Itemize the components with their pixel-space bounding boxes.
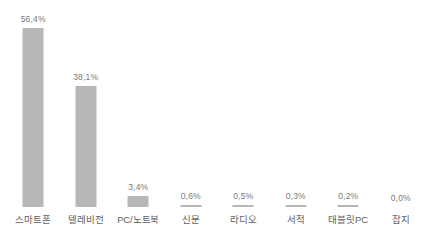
bar-group: 0,5% (217, 0, 270, 207)
bar-group: 56,4% (7, 0, 60, 207)
bar[interactable] (23, 28, 44, 207)
bar-group: 3,4% (112, 0, 165, 207)
plot-area: 56,4%38,1%3,4%0,6%0,5%0,3%0,2%0,0% (0, 0, 433, 207)
bar-value-label: 56,4% (21, 14, 46, 24)
category-label: 태블릿PC (322, 212, 375, 226)
bar-group: 0,6% (165, 0, 218, 207)
category-label: 스마트폰 (7, 212, 60, 226)
bar-value-label: 38,1% (73, 72, 98, 82)
category-label: 라디오 (217, 212, 270, 226)
category-label: 서적 (270, 212, 323, 226)
category-axis: 스마트폰텔레비전PC/노트북신문라디오서적태블릿PC잡지 (0, 207, 433, 246)
bar-value-label: 0,5% (233, 191, 253, 201)
category-label: PC/노트북 (112, 212, 165, 226)
bar-group: 38,1% (60, 0, 113, 207)
category-label: 잡지 (375, 212, 428, 226)
category-label: 신문 (165, 212, 218, 226)
bar-value-label: 3,4% (128, 182, 148, 192)
bar-chart: 56,4%38,1%3,4%0,6%0,5%0,3%0,2%0,0% 스마트폰텔… (0, 0, 433, 246)
bar-group: 0,0% (375, 0, 428, 207)
bar-value-label: 0,0% (391, 193, 411, 203)
bar-value-label: 0,3% (286, 191, 306, 201)
bar[interactable] (128, 196, 149, 207)
category-label: 텔레비전 (60, 212, 113, 226)
bar-value-label: 0,6% (181, 191, 201, 201)
bar-value-label: 0,2% (338, 191, 358, 201)
bar[interactable] (75, 86, 96, 207)
bar-group: 0,2% (322, 0, 375, 207)
bar-group: 0,3% (270, 0, 323, 207)
